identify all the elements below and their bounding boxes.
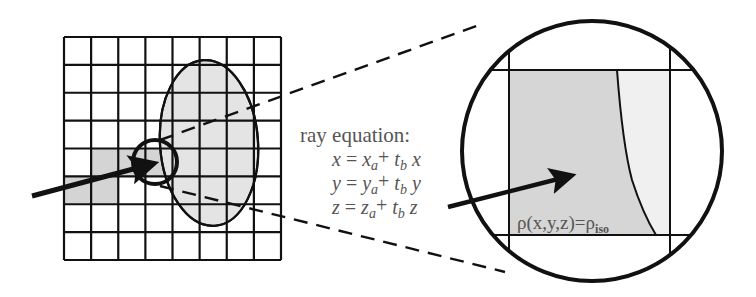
- equation-term: z: [331, 196, 340, 218]
- ray-casting-diagram: ρ(x,y,z)=ρiso ray equation: x = xa+ tb x…: [0, 0, 756, 297]
- equation-line: x = xa+ tb x: [331, 146, 421, 173]
- equation-term: +: [378, 170, 394, 192]
- equation-heading: ray equation:: [300, 123, 410, 147]
- equation-term: +: [378, 146, 394, 168]
- equation-term: =: [341, 148, 362, 170]
- equation-term: =: [340, 196, 361, 218]
- equation-line: z = za+ tb z: [331, 194, 418, 221]
- equation-term: b: [400, 182, 407, 197]
- equation-term: z: [360, 196, 369, 218]
- equation-term: a: [371, 158, 378, 173]
- equation-term: x: [407, 148, 421, 170]
- equation-term: a: [369, 206, 376, 221]
- equation-line: y = ya+ tb y: [330, 170, 421, 197]
- equation-term: b: [398, 206, 405, 221]
- equation-term: =: [341, 172, 362, 194]
- equation-term: b: [400, 158, 407, 173]
- equation-term: y: [407, 172, 421, 195]
- equation-term: y: [360, 172, 371, 195]
- magnified-voxel-view: ρ(x,y,z)=ρiso: [440, 0, 740, 297]
- equation-term: y: [330, 172, 341, 195]
- ray-equation: ray equation: x = xa+ tb xy = ya+ tb yz …: [300, 123, 421, 221]
- equation-term: x: [361, 148, 371, 170]
- equation-term: z: [405, 196, 418, 218]
- equation-term: x: [331, 148, 341, 170]
- equation-term: +: [376, 194, 392, 216]
